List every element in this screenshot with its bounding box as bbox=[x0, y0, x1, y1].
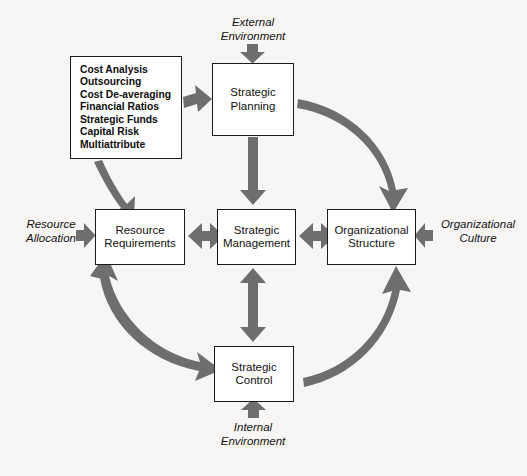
connector-strategic-control-to-organizational-structure-arc bbox=[303, 266, 411, 387]
connector-techniques-to-strategic-planning bbox=[183, 85, 212, 112]
node-strategic-planning-label: Strategic Planning bbox=[230, 86, 275, 113]
label-internal-environment: Internal Environment bbox=[203, 421, 303, 448]
connector-external-environment-to-strategic-planning bbox=[240, 44, 265, 64]
node-strategic-control-label: Strategic Control bbox=[231, 361, 276, 388]
list-item: Cost Analysis bbox=[80, 64, 171, 76]
label-external-environment: External Environment bbox=[203, 16, 303, 43]
node-organizational-structure-label: Organizational Structure bbox=[334, 224, 408, 251]
list-item: Capital Risk bbox=[80, 126, 171, 138]
connector-resource-requirements-to-strategic-control-arc bbox=[90, 254, 221, 381]
node-techniques-list[interactable]: Cost Analysis Outsourcing Cost De-averag… bbox=[70, 56, 182, 159]
list-item: Outsourcing bbox=[80, 76, 171, 88]
node-strategic-control[interactable]: Strategic Control bbox=[214, 346, 294, 402]
node-organizational-structure[interactable]: Organizational Structure bbox=[327, 209, 416, 265]
connector-strategic-planning-to-strategic-management bbox=[240, 137, 266, 205]
node-strategic-management[interactable]: Strategic Management bbox=[217, 209, 296, 265]
list-item: Strategic Funds bbox=[80, 114, 171, 126]
list-item: Multiattribute bbox=[80, 139, 171, 151]
label-organizational-culture: Organizational Culture bbox=[432, 218, 524, 245]
connector-strategic-management-to-strategic-control bbox=[240, 268, 266, 342]
list-item: Financial Ratios bbox=[80, 101, 171, 113]
node-strategic-management-label: Strategic Management bbox=[223, 224, 290, 251]
techniques-list: Cost Analysis Outsourcing Cost De-averag… bbox=[80, 64, 171, 151]
list-item: Cost De-averaging bbox=[80, 89, 171, 101]
label-resource-allocation: Resource Allocation bbox=[12, 218, 90, 245]
node-resource-requirements-label: Resource Requirements bbox=[104, 224, 176, 251]
connector-strategic-planning-to-organizational-structure-arc bbox=[297, 99, 408, 213]
node-strategic-planning[interactable]: Strategic Planning bbox=[212, 63, 294, 136]
diagram-canvas: Strategic Planning Resource Requirements… bbox=[0, 0, 527, 476]
node-resource-requirements[interactable]: Resource Requirements bbox=[95, 209, 185, 265]
connector-organizational-culture-to-organizational-structure bbox=[415, 223, 434, 248]
